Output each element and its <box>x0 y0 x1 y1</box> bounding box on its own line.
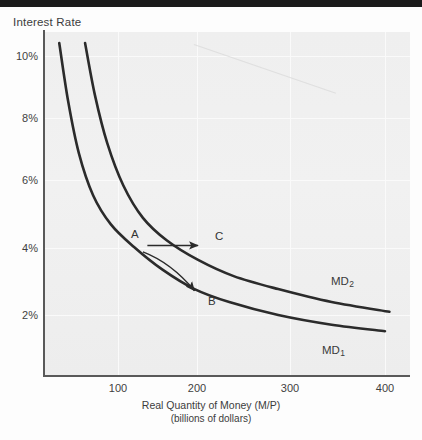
curve-label-md2: MD2 <box>331 275 354 289</box>
money-demand-curve-md2 <box>85 43 389 312</box>
curve-label-md1-base: MD <box>322 344 340 356</box>
curve-label-md1: MD1 <box>322 344 345 358</box>
curve-label-md1-subscript: 1 <box>340 348 345 358</box>
point-label-b: B <box>208 295 216 307</box>
point-label-c: C <box>215 230 223 242</box>
money-demand-figure: Interest Rate 10% 8% 6% 4% 2% 100 200 30… <box>0 0 422 440</box>
curve-label-md2-base: MD <box>331 275 349 287</box>
curves-overlay <box>0 0 422 440</box>
curve-label-md2-subscript: 2 <box>349 279 354 289</box>
point-label-a: A <box>131 228 139 240</box>
